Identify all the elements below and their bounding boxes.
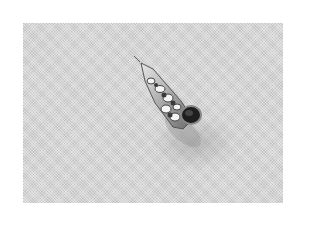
- seashell-photo: [23, 23, 283, 203]
- seashell-image: [23, 23, 283, 203]
